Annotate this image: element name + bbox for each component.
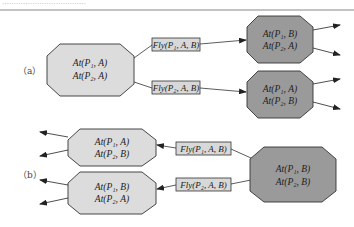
arrow-fly1-to-predecessor1 xyxy=(157,145,176,148)
state-line-2: At(P₂, A) xyxy=(262,41,297,52)
part-b-action-fly1: Fly(P₁, A, B) xyxy=(176,142,231,155)
arrow-fly2-to-predecessor2 xyxy=(157,185,176,189)
truncated-header-text: ……………………………… xyxy=(2,0,86,6)
arrow-out xyxy=(313,102,340,109)
edge-goal-to-fly2 xyxy=(231,180,251,184)
state-line-1: At(P₁, B) xyxy=(94,182,129,193)
action-label: Fly(P₁, A, B) xyxy=(152,40,199,50)
state-line-1: At(P₁, A) xyxy=(72,58,107,69)
arrow-out xyxy=(40,150,68,156)
edge-goal-to-fly1 xyxy=(231,149,251,158)
arrow-out xyxy=(40,180,68,185)
arrow-out xyxy=(313,79,340,84)
action-label: Fly(P₂, A, B) xyxy=(179,180,226,190)
edge-a-initial-to-fly1 xyxy=(134,45,152,58)
part-a-result-state-2: At(P₁, A) At(P₂, B) xyxy=(247,71,313,118)
part-b-action-fly2: Fly(P₂, A, B) xyxy=(176,178,231,191)
arrow-out xyxy=(313,48,340,55)
part-a-initial-state: At(P₁, A) At(P₂, A) xyxy=(47,44,134,96)
part-a-result-state-1: At(P₁, B) At(P₂, A) xyxy=(247,16,313,63)
edge-a-initial-to-fly2 xyxy=(134,82,152,88)
part-a-action-fly1: Fly(P₁, A, B) xyxy=(152,38,200,51)
part-a-action-fly2: Fly(P₂, A, B) xyxy=(152,81,200,94)
state-line-2: At(P₂, A) xyxy=(72,71,107,82)
action-label: Fly(P₂, A, B) xyxy=(152,83,199,93)
state-line-2: At(P₂, B) xyxy=(262,96,297,107)
state-line-1: At(P₁, A) xyxy=(94,137,129,148)
arrow-out xyxy=(40,198,68,204)
state-line-1: At(P₁, B) xyxy=(262,29,297,40)
state-line-2: At(P₂, B) xyxy=(94,149,129,160)
arrow-fly1-to-result1 xyxy=(200,40,246,44)
state-line-1: At(P₁, A) xyxy=(262,84,297,95)
arrow-out xyxy=(313,25,340,30)
part-b-goal-state: At(P₁, B) At(P₂, B) xyxy=(250,147,336,202)
arrow-fly2-to-result2 xyxy=(200,88,246,92)
state-space-diagram: ……………………………… （a） At(P₁, A) At(P₂, A) Fly… xyxy=(0,0,354,227)
state-line-2: At(P₂, A) xyxy=(94,194,129,205)
part-b-label: （b） xyxy=(18,170,42,180)
part-a-label: （a） xyxy=(18,66,41,76)
action-label: Fly(P₁, A, B) xyxy=(179,144,226,154)
part-b-predecessor-state-1: At(P₁, A) At(P₂, B) xyxy=(68,129,156,166)
part-b-predecessor-state-2: At(P₁, B) At(P₂, A) xyxy=(68,172,156,214)
arrow-out xyxy=(40,132,68,137)
state-line-1: At(P₁, B) xyxy=(275,164,310,175)
state-line-2: At(P₂, B) xyxy=(275,177,310,188)
